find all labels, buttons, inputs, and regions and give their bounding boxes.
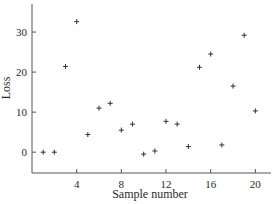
plus-marker — [219, 142, 224, 147]
plus-marker — [141, 152, 146, 157]
plus-marker — [119, 128, 124, 133]
plus-marker — [175, 122, 180, 127]
scatter-chart: 0102030 48121620 Sample number Loss — [0, 0, 272, 204]
data-points — [41, 19, 258, 157]
plus-marker — [242, 33, 247, 38]
plus-marker — [85, 132, 90, 137]
plus-marker — [253, 108, 258, 113]
y-tick-label: 30 — [16, 26, 28, 38]
axes — [32, 4, 271, 173]
plus-marker — [52, 150, 57, 155]
plus-marker — [108, 101, 113, 106]
plus-marker — [97, 106, 102, 111]
x-tick-label: 16 — [205, 178, 217, 190]
plus-marker — [164, 119, 169, 124]
plus-marker — [41, 150, 46, 155]
y-tick-label: 0 — [22, 146, 28, 158]
plus-marker — [186, 144, 191, 149]
plot-area: 0102030 48121620 Sample number Loss — [0, 0, 272, 204]
plus-marker — [231, 84, 236, 89]
plus-marker — [74, 19, 79, 24]
x-axis-label: Sample number — [112, 187, 188, 201]
y-tick-label: 10 — [16, 106, 28, 118]
y-axis-ticks: 0102030 — [16, 26, 36, 158]
plus-marker — [208, 52, 213, 57]
x-tick-label: 20 — [250, 178, 262, 190]
plus-marker — [197, 65, 202, 70]
y-tick-label: 20 — [16, 66, 28, 78]
plus-marker — [152, 148, 157, 153]
y-axis-label: Loss — [0, 76, 13, 99]
x-tick-label: 4 — [74, 178, 80, 190]
plus-marker — [63, 64, 68, 69]
plus-marker — [130, 122, 135, 127]
